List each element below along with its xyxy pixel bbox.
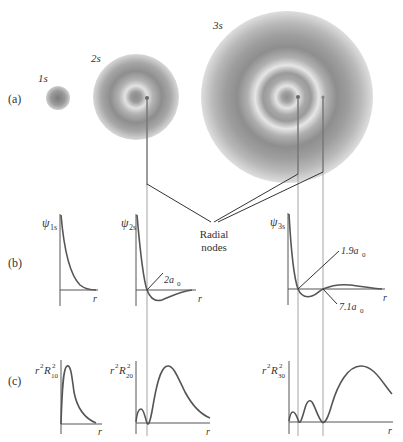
svg-text:30: 30 <box>278 372 286 380</box>
orbital-3s: 3s <box>201 11 373 183</box>
orbital-2s-label: 2s <box>91 52 101 64</box>
psi-3s-plot: ψ 3s 1.9a 0 7.1a 0 r <box>270 213 387 315</box>
radial-nodes-label-line2: nodes <box>201 241 227 253</box>
psi-2s-subscript: 2s <box>129 223 136 232</box>
psi-1s-label: ψ <box>42 216 50 230</box>
r-axis-label: r <box>383 292 387 303</box>
psi-3s-subscript: 3s <box>278 222 285 231</box>
orbital-figure: (a) (b) (c) 1s 2s 3s Radial nodes ψ 1s r <box>0 0 403 442</box>
orbital-2s: 2s <box>91 52 179 140</box>
rdf-2s-plot: r 2 R 2 20 r <box>110 361 210 437</box>
rdf-1s-plot: r 2 R 2 10 r <box>35 360 102 437</box>
svg-text:10: 10 <box>51 372 59 380</box>
svg-text:0: 0 <box>177 280 181 288</box>
svg-text:20: 20 <box>126 372 134 380</box>
r-axis-label: r <box>206 426 210 437</box>
svg-text:2: 2 <box>52 362 56 370</box>
psi-2s-plot: ψ 2s 2a 0 r <box>121 214 202 306</box>
psi-1s-subscript: 1s <box>50 223 57 232</box>
svg-text:0: 0 <box>360 307 364 315</box>
svg-text:R: R <box>270 364 278 376</box>
node-label-1.9a0: 1.9a <box>341 245 359 256</box>
r-axis-label: r <box>98 426 102 437</box>
psi-3s-label: ψ <box>270 215 278 229</box>
row-label-a: (a) <box>8 92 21 106</box>
rdf-3s-plot: r 2 R 2 30 r <box>262 361 393 436</box>
r-axis-label: r <box>198 293 202 304</box>
r-axis-label: r <box>388 425 392 436</box>
row-label-b: (b) <box>8 256 22 270</box>
orbital-3s-label: 3s <box>212 19 223 31</box>
psi-2s-label: ψ <box>121 216 129 230</box>
radial-nodes-callout: Radial nodes <box>147 172 323 253</box>
orbital-1s: 1s <box>38 72 70 110</box>
svg-text:R: R <box>43 364 51 376</box>
svg-text:2: 2 <box>279 362 283 370</box>
row-label-c: (c) <box>8 374 21 388</box>
node-label-7.1a0: 7.1a <box>339 301 357 312</box>
orbital-1s-label: 1s <box>38 72 48 84</box>
r-axis-label: r <box>93 293 97 304</box>
svg-text:0: 0 <box>362 251 366 259</box>
radial-nodes-label-line1: Radial <box>200 228 229 240</box>
psi-1s-plot: ψ 1s r <box>42 214 98 306</box>
svg-text:2: 2 <box>127 362 131 370</box>
node-label-2a0: 2a <box>164 274 174 285</box>
svg-text:R: R <box>118 364 126 376</box>
